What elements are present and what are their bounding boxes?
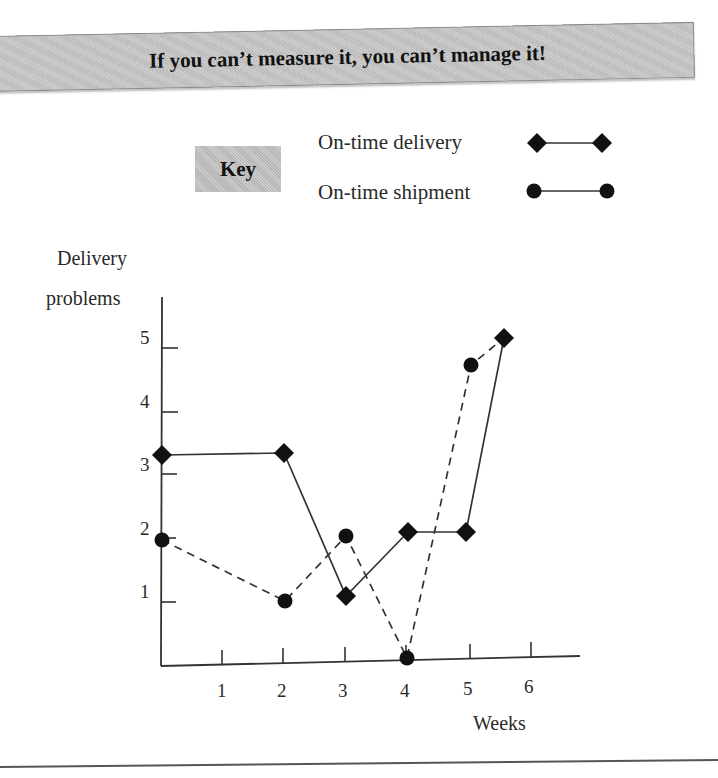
line-chart (0, 0, 718, 778)
data-point (278, 594, 293, 609)
data-point (152, 445, 172, 465)
circle-icon (600, 184, 615, 199)
legend-marker-delivery (527, 133, 612, 153)
data-point (339, 529, 354, 544)
series-shipment (155, 338, 505, 666)
data-point (400, 651, 415, 666)
data-point (464, 358, 479, 373)
data-point (155, 533, 170, 548)
series-delivery (152, 328, 514, 606)
data-point (274, 443, 294, 463)
x-axis (161, 642, 580, 666)
data-point (456, 522, 476, 542)
diamond-icon (592, 133, 612, 153)
data-point (494, 328, 514, 348)
diamond-icon (527, 133, 547, 153)
legend-marker-shipment (527, 184, 615, 199)
circle-icon (527, 184, 542, 199)
y-axis (161, 297, 178, 666)
